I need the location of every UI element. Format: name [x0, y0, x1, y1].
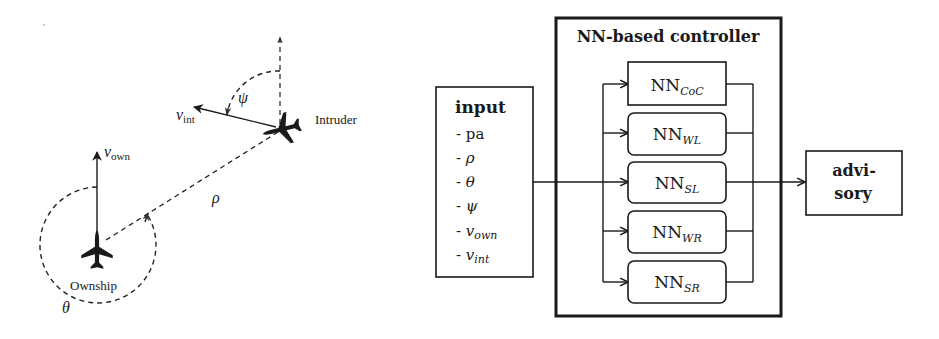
scan-speck — [43, 24, 45, 26]
ownship-plane-icon — [81, 230, 113, 269]
psi-arc-arrowhead — [227, 108, 228, 115]
intruder-plane-icon — [259, 109, 304, 149]
v-int-label: vint — [176, 106, 195, 125]
controller-title: NN-based controller — [577, 27, 760, 46]
block-diagram: input - pa - ρ - θ - ψ - vown - vint NN-… — [436, 18, 902, 316]
theta-label: θ — [62, 299, 70, 316]
rho-label: ρ — [211, 189, 220, 207]
encounter-geometry: vown vint Intruder Ownship ρ θ ψ — [40, 37, 358, 316]
advisory-line2: sory — [834, 184, 872, 203]
input-item-theta: - θ — [456, 173, 475, 191]
psi-arc — [227, 71, 280, 114]
advisory-line1: advi- — [832, 161, 876, 180]
intruder-label: Intruder — [315, 112, 358, 127]
input-item-psi: - ψ — [456, 197, 478, 215]
figure-canvas: vown vint Intruder Ownship ρ θ ψ input -… — [0, 0, 939, 339]
input-item-rho: - ρ — [456, 149, 475, 167]
input-item-pa: - pa — [456, 125, 484, 143]
v-own-label: vown — [104, 143, 131, 162]
v-int-arrow — [194, 107, 276, 127]
ownship-label: Ownship — [70, 278, 117, 293]
psi-label: ψ — [238, 89, 249, 107]
rho-line — [106, 132, 278, 240]
input-title: input — [455, 97, 506, 117]
